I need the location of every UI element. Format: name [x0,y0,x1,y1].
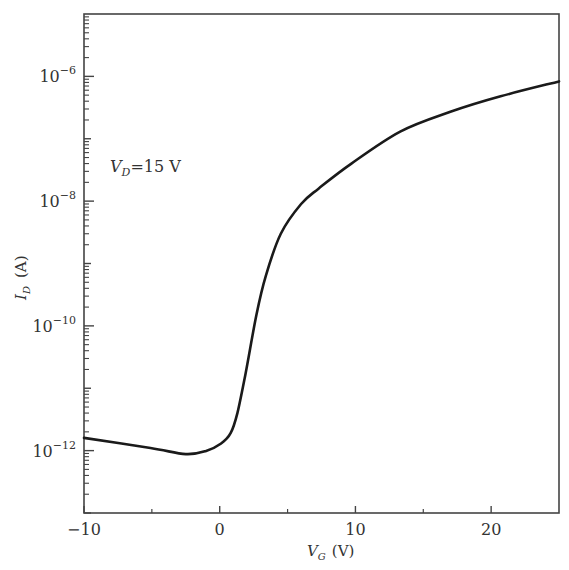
y-tick-labels: 10−1210−1010−810−6 [32,64,76,460]
vd-annotation: VD=15 V [110,157,181,179]
x-tick-label: 0 [215,520,225,539]
x-tick-label: −10 [67,520,101,539]
id-vg-curve [84,81,559,454]
id-vg-transfer-chart: 10−1210−1010−810−6 −1001020 VD=15 V VG(V… [0,0,569,570]
x-axis-label: VG(V) [307,542,354,562]
y-tick-label: 10−10 [32,314,76,336]
x-ticks [84,506,491,513]
x-tick-label: 10 [345,520,365,539]
y-tick-label: 10−6 [39,64,76,86]
plot-frame [84,14,559,513]
x-tick-labels: −1001020 [67,520,501,539]
y-tick-label: 10−12 [32,439,76,461]
y-axis-label: ID(A) [12,255,32,301]
y-tick-label: 10−8 [39,189,76,211]
x-tick-label: 20 [481,520,501,539]
